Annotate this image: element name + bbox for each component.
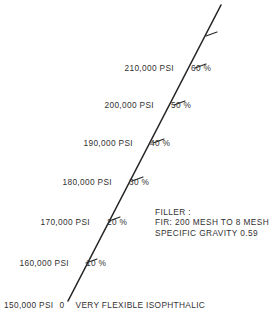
chart-figure: 210,000 PSI 60 % 200,000 PSI 50 % 190,00… [0, 0, 280, 319]
percent-label-30: 30 % [129, 177, 149, 187]
filler-note-line-3: SPECIFIC GRAVITY 0.59 [155, 228, 269, 238]
percent-label-50: 50 % [171, 100, 191, 110]
percent-label-60: 60 % [191, 63, 211, 73]
trend-line [68, 5, 221, 301]
percent-label-10: 10 % [86, 258, 106, 268]
baseline-description: VERY FLEXIBLE ISOPHTHALIC [76, 300, 206, 310]
psi-label-origin: 150,000 PSI [4, 300, 54, 310]
tick-70 [206, 32, 217, 36]
psi-label-50: 200,000 PSI [84, 100, 154, 110]
psi-label-20: 170,000 PSI [20, 217, 90, 227]
origin-row: 150,000 PSI0VERY FLEXIBLE ISOPHTHALIC [4, 300, 205, 310]
psi-label-60: 210,000 PSI [104, 63, 174, 73]
psi-label-30: 180,000 PSI [42, 177, 112, 187]
filler-note-block: FILLER : FIR: 200 MESH TO 8 MESH SPECIFI… [155, 207, 269, 238]
psi-label-40: 190,000 PSI [63, 138, 133, 148]
percent-label-20: 20 % [107, 217, 127, 227]
percent-label-40: 40 % [150, 138, 170, 148]
psi-label-10: 160,000 PSI [0, 258, 69, 268]
plot-area [0, 0, 280, 319]
percent-label-origin: 0 [60, 300, 65, 310]
filler-note-line-2: FIR: 200 MESH TO 8 MESH [155, 217, 269, 227]
filler-note-line-1: FILLER : [155, 207, 269, 217]
